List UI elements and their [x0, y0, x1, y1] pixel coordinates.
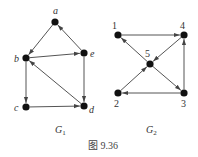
node-c: [22, 103, 29, 110]
figure-9-36: abecdG1 14523G2 图 9.36: [0, 0, 198, 157]
edge-c-to-d: [30, 106, 80, 107]
node-label-d: d: [89, 104, 95, 115]
edge-b-to-e: [30, 53, 80, 57]
edge-d-to-b: [29, 61, 81, 104]
node-1: [114, 31, 121, 38]
edge-2-to-5: [121, 67, 147, 91]
node-b: [22, 54, 29, 61]
node-2: [114, 89, 121, 96]
figure-caption: 图 9.36: [88, 140, 118, 151]
edge-e-to-a: [58, 25, 82, 50]
node-label-3: 3: [181, 98, 186, 109]
graph-label-g2: G2: [146, 124, 157, 137]
node-label-a: a: [53, 5, 58, 16]
edge-5-to-1: [121, 38, 147, 62]
node-label-1: 1: [112, 20, 117, 31]
node-e: [80, 49, 87, 56]
graph-g2: 14523G2: [112, 20, 188, 137]
node-label-b: b: [14, 53, 19, 64]
edge-5-to-3: [153, 66, 181, 90]
graph-g1: abecdG1: [14, 5, 95, 137]
node-label-5: 5: [145, 48, 150, 59]
node-a: [51, 18, 58, 25]
node-3: [180, 89, 187, 96]
edge-4-to-5: [153, 37, 181, 61]
edge-a-to-b: [29, 25, 53, 55]
node-d: [80, 102, 87, 109]
node-label-2: 2: [114, 98, 119, 109]
node-label-c: c: [14, 102, 19, 113]
node-label-4: 4: [180, 20, 185, 31]
node-4: [180, 31, 187, 38]
graph-label-g1: G1: [55, 124, 66, 137]
node-label-e: e: [90, 48, 95, 59]
node-5: [146, 60, 153, 67]
